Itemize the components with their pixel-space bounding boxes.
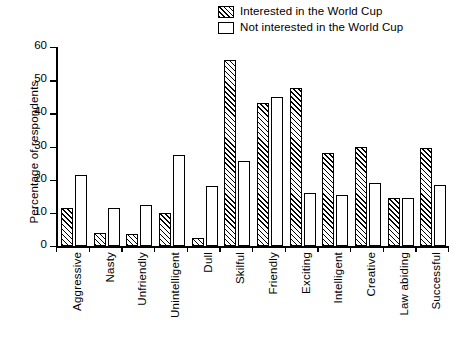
legend-label-interested: Interested in the World Cup — [240, 5, 382, 18]
bar-intelligent-interested — [322, 153, 334, 246]
bar-unintelligent-interested — [159, 213, 171, 246]
y-tick-30: 30 — [50, 147, 56, 148]
bar-skilful-interested — [224, 60, 236, 246]
x-label-aggressive: Aggressive — [71, 252, 83, 311]
x-label-nasty: Nasty — [104, 252, 116, 282]
bar-dull-not-interested — [206, 186, 218, 246]
x-label-unfriendly: Unfriendly — [136, 252, 148, 306]
bar-law-abiding-interested — [388, 198, 400, 246]
bar-friendly-not-interested — [271, 97, 283, 246]
bar-skilful-not-interested — [238, 161, 250, 246]
bar-unintelligent-not-interested — [173, 155, 185, 246]
x-label-skilful: Skilful — [234, 252, 246, 284]
y-tick-50: 50 — [50, 80, 56, 81]
legend-swatch-white-icon — [218, 22, 234, 34]
bar-friendly-interested — [257, 103, 269, 246]
y-tick-20: 20 — [50, 180, 56, 181]
legend-item-interested: Interested in the World Cup — [218, 4, 458, 19]
bar-successful-interested — [420, 148, 432, 246]
y-tick-60: 60 — [50, 47, 56, 48]
legend-swatch-hatched-icon — [218, 6, 234, 18]
x-label-exciting: Exciting — [300, 252, 312, 294]
x-label-dull: Dull — [202, 252, 214, 273]
y-tick-label-10: 10 — [34, 205, 47, 217]
bar-nasty-interested — [94, 233, 106, 246]
y-tick-label-40: 40 — [34, 105, 47, 117]
bar-exciting-not-interested — [304, 193, 316, 246]
bar-exciting-interested — [290, 88, 302, 246]
bar-chart: Interested in the World Cup Not interest… — [0, 0, 459, 347]
bar-dull-interested — [192, 238, 204, 246]
x-label-intelligent: Intelligent — [332, 252, 344, 303]
bar-successful-not-interested — [434, 185, 446, 246]
x-label-creative: Creative — [365, 252, 377, 296]
y-tick-10: 10 — [50, 213, 56, 214]
chart-legend: Interested in the World Cup Not interest… — [218, 4, 458, 36]
y-axis-line — [56, 47, 58, 246]
y-tick-label-30: 30 — [34, 139, 47, 151]
bar-creative-not-interested — [369, 183, 381, 246]
x-label-unintelligent: Unintelligent — [169, 252, 181, 318]
y-tick-label-0: 0 — [41, 238, 47, 250]
y-tick-label-50: 50 — [34, 72, 47, 84]
bar-unfriendly-not-interested — [140, 205, 152, 246]
x-tick-11 — [448, 246, 449, 252]
bar-creative-interested — [355, 147, 367, 247]
bar-unfriendly-interested — [126, 234, 138, 246]
bar-nasty-not-interested — [108, 208, 120, 246]
plot-area: 0102030405060 — [56, 47, 448, 246]
y-tick-40: 40 — [50, 113, 56, 114]
y-tick-label-20: 20 — [34, 172, 47, 184]
x-label-friendly: Friendly — [267, 252, 279, 295]
x-axis-labels: AggressiveNastyUnfriendlyUnintelligentDu… — [56, 252, 448, 347]
x-label-successful: Successful — [430, 252, 442, 310]
x-label-law-abiding: Law abiding — [398, 252, 410, 316]
bar-aggressive-not-interested — [75, 175, 87, 246]
bar-law-abiding-not-interested — [402, 198, 414, 246]
legend-item-not-interested: Not interested in the World Cup — [218, 20, 458, 35]
bar-aggressive-interested — [61, 208, 73, 246]
y-tick-label-60: 60 — [34, 39, 47, 51]
bar-intelligent-not-interested — [336, 195, 348, 246]
legend-label-not-interested: Not interested in the World Cup — [240, 21, 403, 34]
